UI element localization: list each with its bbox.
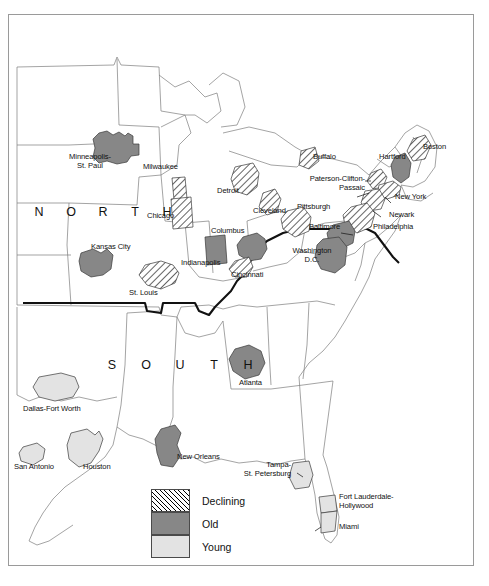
- city-label-baltimore: Baltimore: [309, 223, 340, 232]
- legend-item-declining[interactable]: Declining: [151, 489, 245, 512]
- city-label-hartford: Hartford: [379, 153, 406, 162]
- metro-shape-miami: [321, 511, 337, 533]
- city-label-philadelphia: Philadelphia: [373, 223, 413, 232]
- city-label-st-louis: St. Louis: [129, 289, 158, 298]
- city-label-indianapolis: Indianapolis: [181, 259, 220, 268]
- city-label-dallas-fort-worth: Dallas-Fort Worth: [23, 405, 81, 414]
- metro-shape-milwaukee: [172, 177, 187, 200]
- city-label-newark: Newark: [389, 211, 414, 220]
- metro-shape-dallas-fort-worth: [33, 373, 79, 401]
- city-label-tampa-st-petersburg: Tampa- St. Petersburg: [225, 461, 291, 478]
- metro-shape-columbus: [237, 233, 267, 261]
- legend-swatch-old-icon: [151, 512, 190, 535]
- city-label-cleveland: Cleveland: [253, 207, 286, 216]
- city-label-columbus: Columbus: [211, 227, 244, 236]
- city-label-san-antonio: San Antonio: [14, 463, 54, 472]
- region-north-letter-1: O: [55, 205, 87, 219]
- legend-item-young[interactable]: Young: [151, 535, 245, 558]
- city-label-pittsburgh: Pittsburgh: [297, 203, 330, 212]
- city-label-buffalo: Buffalo: [313, 153, 336, 162]
- region-south-letter-2: U: [163, 358, 197, 372]
- map-figure: NORTH SOUTH Minneapolis- St. Paul Milwau…: [0, 0, 489, 586]
- city-label-atlanta: Atlanta: [239, 379, 262, 388]
- figure-frame: NORTH SOUTH Minneapolis- St. Paul Milwau…: [8, 14, 474, 566]
- legend-swatch-young-icon: [151, 535, 190, 558]
- city-label-minneapolis-st-paul: Minneapolis- St. Paul: [53, 153, 127, 170]
- region-south-letter-1: O: [129, 358, 163, 372]
- us-map-svg: [9, 15, 475, 567]
- city-label-miami: Miami: [339, 523, 359, 532]
- city-label-new-orleans: New Orleans: [177, 453, 220, 462]
- legend-swatch-declining-icon: [151, 489, 190, 512]
- city-label-cincinnati: Cincinnati: [231, 271, 263, 280]
- map-legend: Declining Old Young: [151, 489, 245, 558]
- city-label-kansas-city: Kansas City: [91, 243, 130, 252]
- region-label-south: SOUTH: [95, 358, 265, 372]
- city-label-chicago: Chicago: [147, 212, 174, 221]
- map-surface: NORTH SOUTH Minneapolis- St. Paul Milwau…: [9, 15, 473, 565]
- metro-shape-kansas-city: [79, 249, 113, 277]
- city-label-fort-lauderdale-hollywood: Fort Lauderdale- Hollywood: [339, 493, 394, 510]
- legend-item-old[interactable]: Old: [151, 512, 245, 535]
- city-label-houston: Houston: [83, 463, 111, 472]
- region-south-letter-3: T: [197, 358, 231, 372]
- region-south-letter-4: H: [231, 358, 265, 372]
- metro-shape-st-louis: [139, 261, 179, 289]
- metro-shape-tampa-st-petersburg: [289, 461, 313, 489]
- legend-label-old: Old: [202, 518, 218, 530]
- region-north-letter-0: N: [23, 205, 55, 219]
- city-label-detroit: Detroit: [217, 187, 239, 196]
- city-label-boston: Boston: [423, 143, 446, 152]
- city-label-milwaukee: Milwaukee: [143, 163, 178, 172]
- city-label-washington-dc: Washington D.C.: [283, 247, 341, 264]
- region-south-letter-0: S: [95, 358, 129, 372]
- region-north-letter-2: R: [87, 205, 119, 219]
- city-label-new-york: New York: [395, 193, 426, 202]
- legend-label-young: Young: [202, 541, 231, 553]
- legend-label-declining: Declining: [202, 495, 245, 507]
- metro-shape-fort-lauderdale-hollywood: [319, 495, 337, 513]
- city-label-paterson-clifton-passaic: Paterson-Clifton- Passaic: [291, 175, 365, 192]
